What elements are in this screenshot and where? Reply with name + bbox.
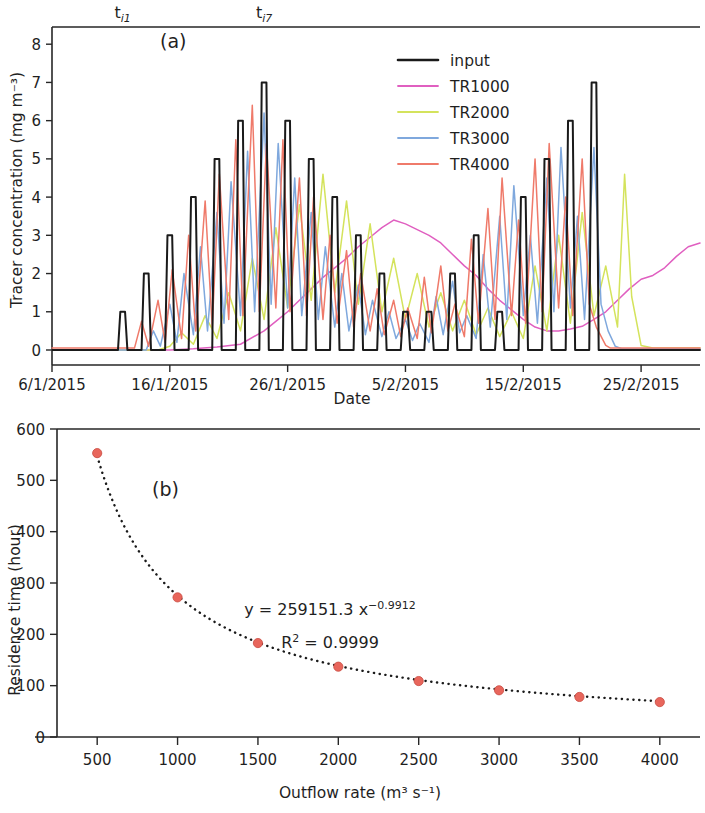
equation-line-2: R2 = 0.9999: [281, 632, 379, 652]
panel-a-annotation-i7: ti7: [256, 3, 272, 25]
panel-b-x-tick-label: 4000: [641, 751, 679, 769]
panel-b-x-tick-label: 3500: [560, 751, 598, 769]
panel-b-y-axis-title: Residence time (hour): [6, 524, 24, 696]
panel-a-x-axis-title: Date: [333, 390, 370, 408]
panel-b-x-tick-label: 2000: [319, 751, 357, 769]
panel-a-x-tick-label: 15/2/2015: [485, 376, 562, 394]
equation-line-1: y = 259151.3 x−0.9912: [244, 599, 416, 619]
r-squared-superscript: 2: [292, 632, 299, 645]
equation-exponent: −0.9912: [368, 599, 416, 612]
annotation-subscript-i7: i7: [262, 12, 272, 25]
panel-a-tracer-timeseries: ti1ti7 (a) 012345678 6/1/201516/1/201526…: [0, 0, 705, 410]
panel-b-label: (b): [152, 478, 179, 500]
panel-a-label: (a): [160, 30, 186, 52]
panel-a-y-tick-label: 4: [31, 189, 41, 207]
r-squared-value: = 0.9999: [299, 633, 379, 652]
panel-a-x-tick-label: 16/1/2015: [131, 376, 208, 394]
panel-a-legend: inputTR1000TR2000TR3000TR4000: [398, 52, 510, 174]
panel-b-data-point: [414, 676, 423, 685]
panel-a-y-tick-label: 2: [31, 265, 41, 283]
panel-a-y-tick-label: 6: [31, 112, 41, 130]
panel-a-y-ticks: 012345678: [31, 36, 52, 360]
panel-a-x-tick-label: 6/1/2015: [18, 376, 85, 394]
panel-a-annotation-i1: ti1: [115, 3, 131, 25]
panel-b-x-tick-label: 1500: [239, 751, 277, 769]
panel-b-fit-curve: [97, 456, 659, 701]
panel-b-y-tick-label: 500: [16, 472, 45, 490]
panel-b-x-tick-label: 1000: [158, 751, 196, 769]
panel-b-data-point: [173, 593, 182, 602]
legend-label-input: input: [450, 52, 490, 70]
panel-b-data-point: [494, 686, 503, 695]
panel-b-data-point: [253, 638, 262, 647]
panel-a-time-annotations: ti1ti7: [115, 3, 273, 25]
panel-b-data-point: [334, 662, 343, 671]
legend-label-tr2000: TR2000: [449, 104, 510, 122]
panel-b-x-ticks: 5001000150020002500300035004000: [83, 737, 679, 769]
panel-b-equation-annotation: y = 259151.3 x−0.9912R2 = 0.9999: [244, 599, 416, 652]
panel-a-svg: ti1ti7 (a) 012345678 6/1/201516/1/201526…: [0, 0, 705, 410]
annotation-text-i7: ti7: [256, 3, 272, 25]
panel-b-data-point: [655, 697, 664, 706]
legend-label-tr3000: TR3000: [449, 130, 510, 148]
panel-a-y-tick-label: 8: [31, 36, 41, 54]
panel-b-svg: (b) 0100200300400500600 5001000150020002…: [0, 410, 705, 813]
panel-b-residence-time: (b) 0100200300400500600 5001000150020002…: [0, 410, 705, 813]
panel-b-y-tick-label: 0: [35, 729, 45, 747]
panel-a-series-group: [52, 82, 700, 350]
panel-b-x-axis-title: Outflow rate (m³ s⁻¹): [279, 784, 441, 802]
annotation-text-i1: ti1: [115, 3, 131, 25]
panel-a-x-tick-label: 25/2/2015: [603, 376, 680, 394]
panel-b-x-tick-label: 2500: [400, 751, 438, 769]
panel-b-axes-frame: [35, 429, 700, 737]
annotation-subscript-i1: i1: [121, 12, 131, 25]
legend-label-tr1000: TR1000: [449, 78, 510, 96]
panel-b-data-point: [575, 692, 584, 701]
panel-a-x-tick-label: 26/1/2015: [249, 376, 326, 394]
panel-a-y-tick-label: 7: [31, 74, 41, 92]
panel-a-x-tick-label: 5/2/2015: [372, 376, 439, 394]
figure-container: ti1ti7 (a) 012345678 6/1/201516/1/201526…: [0, 0, 705, 813]
panel-a-y-axis-title: Tracer concentration (mg m⁻³): [8, 72, 26, 309]
panel-b-y-tick-label: 600: [16, 421, 45, 439]
panel-b-data-point: [93, 449, 102, 458]
panel-a-y-tick-label: 1: [31, 303, 41, 321]
panel-a-y-tick-label: 3: [31, 227, 41, 245]
panel-b-x-tick-label: 500: [83, 751, 112, 769]
panel-a-y-tick-label: 5: [31, 150, 41, 168]
panel-b-x-tick-label: 3000: [480, 751, 518, 769]
legend-label-tr4000: TR4000: [449, 156, 510, 174]
panel-a-y-tick-label: 0: [31, 342, 41, 360]
